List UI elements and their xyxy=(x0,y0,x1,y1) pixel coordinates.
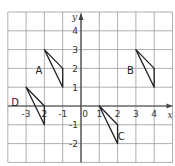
shape-label-d: D xyxy=(11,97,19,108)
y-tick-label: 4 xyxy=(72,26,78,36)
y-tick-label: 2 xyxy=(72,64,78,74)
y-tick-label: -1 xyxy=(69,120,78,130)
tick-labels: -32-1012344321-1-2 xyxy=(22,26,158,149)
coordinate-grid: -32-1012344321-1-2 ABCD x y xyxy=(0,0,175,166)
x-tick-label: -1 xyxy=(58,109,67,119)
y-tick-label: 1 xyxy=(72,83,78,93)
x-tick-label: 3 xyxy=(133,109,139,119)
x-axis-label: x xyxy=(168,110,173,120)
y-tick-label: -2 xyxy=(69,139,78,149)
axes xyxy=(8,13,173,162)
grid-lines xyxy=(8,12,173,162)
x-tick-label: -3 xyxy=(22,109,31,119)
shape-label-a: A xyxy=(35,65,42,76)
x-axis-arrow-icon xyxy=(167,104,173,109)
shape-label-c: C xyxy=(118,131,125,142)
y-axis-arrow-icon xyxy=(79,13,84,20)
x-tick-label: 2 xyxy=(115,109,121,119)
x-tick-label: 0 xyxy=(82,109,88,119)
y-axis-label: y xyxy=(71,12,78,22)
x-tick-label: 4 xyxy=(151,109,157,119)
triangles: ABCD xyxy=(11,50,154,144)
y-tick-label: 3 xyxy=(72,45,78,55)
shape-label-b: B xyxy=(127,65,134,76)
